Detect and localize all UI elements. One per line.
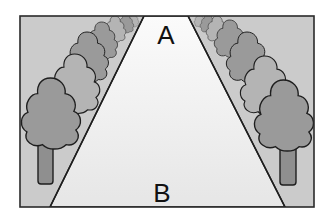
label-far-point: A <box>157 20 175 50</box>
label-near-point: B <box>153 178 170 208</box>
perspective-diagram: A B <box>0 0 333 220</box>
